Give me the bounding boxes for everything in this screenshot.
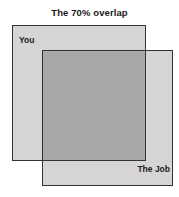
set-label-you: You xyxy=(19,35,34,45)
page-title: The 70% overlap xyxy=(0,7,179,19)
set-label-job: The Job xyxy=(137,164,170,174)
venn-diagram: The 70% overlap You The Job xyxy=(0,0,179,197)
intersection-region xyxy=(42,50,146,161)
